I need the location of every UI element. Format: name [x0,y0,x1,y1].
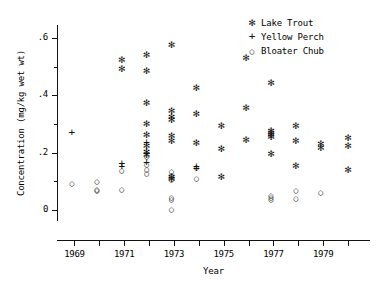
y-tick-label: .6 [38,32,48,43]
data-point-bloater-chub: ○ [117,166,126,175]
legend-item-bloater-chub: ○Bloater Chub [246,44,324,58]
y-tick-0: 0 [52,210,58,211]
data-point-yellow-perch: + [67,127,76,136]
x-tick-1974 [199,241,200,246]
data-point-lake-trout: ✻ [266,131,275,140]
data-point-lake-trout: ✻ [117,64,126,73]
data-point-lake-trout: ✻ [192,83,201,92]
x-tick-1969 [74,241,75,246]
data-point-bloater-chub: ○ [142,152,151,161]
data-point-bloater-chub: ○ [266,195,275,204]
x-tick-1975 [224,241,225,246]
data-point-lake-trout: ✻ [291,160,300,169]
y-axis-title-text: Concentration (mg/kg wet wt) [16,50,26,196]
y-tick-label: 0 [43,204,48,215]
data-point-lake-trout: ✻ [142,118,151,127]
data-point-lake-trout: ✻ [192,138,201,147]
y-tick-0.5 [54,67,58,68]
legend-item-label: Bloater Chub [261,44,324,58]
legend: ✻Lake Trout+Yellow Perch○Bloater Chub [246,16,324,58]
data-point-lake-trout: ✻ [167,135,176,144]
data-point-lake-trout: ✻ [167,114,176,123]
x-tick-1971 [124,241,125,246]
data-point-lake-trout: ✻ [344,165,353,174]
x-tick-1980 [348,241,349,246]
y-tick-0.6: .6 [52,38,58,39]
x-tick-1979 [323,241,324,246]
scatter-plot-figure: Concentration (mg/kg wet wt) 0.2.4.6 ✻✻✻… [0,0,381,294]
x-axis-title: Year [57,266,370,276]
data-point-lake-trout: ✻ [217,143,226,152]
x-tick-1970 [99,241,100,246]
data-point-lake-trout: ✻ [142,49,151,58]
data-point-bloater-chub: ○ [142,168,151,177]
y-tick-0.2: .2 [52,153,58,154]
x-tick-1977 [273,241,274,246]
data-point-bloater-chub: ○ [167,204,176,213]
data-point-lake-trout: ✻ [266,149,275,158]
data-point-bloater-chub: ○ [67,179,76,188]
data-point-bloater-chub: ○ [291,193,300,202]
data-point-bloater-chub: ○ [316,187,325,196]
data-point-bloater-chub: ○ [192,173,201,182]
x-tick-label: 1973 [164,249,184,260]
data-point-lake-trout: ✻ [142,66,151,75]
star-marker-icon: ✻ [246,16,258,30]
data-point-yellow-perch: + [142,137,151,146]
data-point-lake-trout: ✻ [291,135,300,144]
legend-item-yellow-perch: +Yellow Perch [246,30,324,44]
x-tick-1972 [149,241,150,246]
data-point-lake-trout: ✻ [217,120,226,129]
x-tick-label: 1969 [64,249,84,260]
data-point-lake-trout: ✻ [316,143,325,152]
data-point-lake-trout: ✻ [142,97,151,106]
data-point-bloater-chub: ○ [92,185,101,194]
x-tick-label: 1971 [114,249,134,260]
legend-item-label: Yellow Perch [261,30,324,44]
y-axis-title: Concentration (mg/kg wet wt) [14,25,28,221]
data-point-lake-trout: ✻ [217,172,226,181]
data-point-lake-trout: ✻ [242,135,251,144]
legend-item-label: Lake Trout [261,16,313,30]
x-tick-1973 [174,241,175,246]
y-tick-0.3 [54,124,58,125]
plus-marker-icon: + [246,30,258,44]
x-tick-label: 1979 [313,249,333,260]
x-tick-label: 1977 [263,249,283,260]
x-tick-1978 [298,241,299,246]
data-point-lake-trout: ✻ [242,102,251,111]
data-point-lake-trout: ✻ [344,140,353,149]
y-tick-0.1 [54,181,58,182]
x-tick-label: 1975 [213,249,233,260]
y-tick-label: .2 [38,147,48,158]
data-point-bloater-chub: ○ [192,162,201,171]
data-point-bloater-chub: ○ [167,195,176,204]
data-point-bloater-chub: ○ [117,185,126,194]
circle-marker-icon: ○ [246,45,258,59]
x-tick-1976 [249,241,250,246]
y-tick-0.4: .4 [52,95,58,96]
y-tick-label: .4 [38,89,48,100]
data-point-bloater-chub: ○ [167,175,176,184]
data-point-lake-trout: ✻ [192,109,201,118]
legend-item-lake-trout: ✻Lake Trout [246,16,324,30]
data-point-lake-trout: ✻ [167,40,176,49]
data-point-lake-trout: ✻ [291,120,300,129]
data-point-lake-trout: ✻ [266,77,275,86]
